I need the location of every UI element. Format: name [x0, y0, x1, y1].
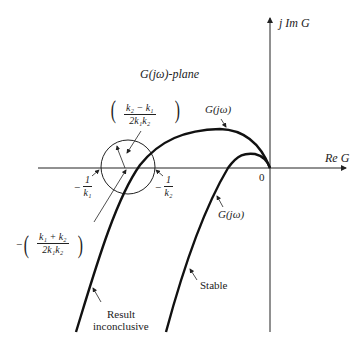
- radius-label-lparen: (: [111, 97, 116, 123]
- imag-axis-label: j Im G: [279, 17, 310, 29]
- k1-point-arrow: [92, 170, 99, 176]
- curve-stable: [166, 154, 270, 332]
- neg-inv-k2-sign: −: [155, 182, 161, 193]
- radius-arrow: [117, 146, 118, 150]
- radius-line: [118, 150, 125, 168]
- center-label: k₁ + k₂ 2k₁k₂: [37, 232, 69, 255]
- inconclusive-label-line2: inconclusive: [93, 321, 149, 332]
- curve-label-lower: G(jω): [218, 209, 244, 220]
- plane-label: G(jω)-plane: [140, 68, 199, 80]
- diagram-graphics: [0, 0, 363, 347]
- origin-label: 0: [259, 172, 265, 183]
- nyquist-diagram: j Im G Re G 0 G(jω)-plane G(jω) G(jω) St…: [0, 0, 363, 347]
- neg-inv-k1-label: 1 k₁: [83, 175, 92, 198]
- neg-inv-k2-label: 1 k₂: [164, 175, 173, 198]
- center-label-sign: −: [16, 239, 22, 250]
- g-label-leader-lower: [217, 196, 223, 207]
- center-label-rparen: ): [78, 232, 83, 258]
- inconclusive-leader: [93, 288, 101, 302]
- center-label-leader: [94, 170, 126, 222]
- real-axis-label: Re G: [325, 152, 349, 164]
- k2-point-arrow: [156, 170, 163, 176]
- radius-label-rparen: ): [175, 97, 180, 123]
- g-label-leader-upper: [221, 119, 226, 127]
- curve-label-upper: G(jω): [205, 104, 231, 115]
- radius-label: k₂ − k₁ 2k₁k₂: [124, 103, 156, 126]
- center-label-lparen: (: [24, 232, 29, 258]
- inconclusive-label-line1: Result: [107, 309, 135, 320]
- stable-leader: [190, 269, 197, 280]
- stable-label: Stable: [200, 280, 228, 291]
- neg-inv-k1-sign: −: [74, 182, 80, 193]
- curve-result-inconclusive: [76, 129, 270, 332]
